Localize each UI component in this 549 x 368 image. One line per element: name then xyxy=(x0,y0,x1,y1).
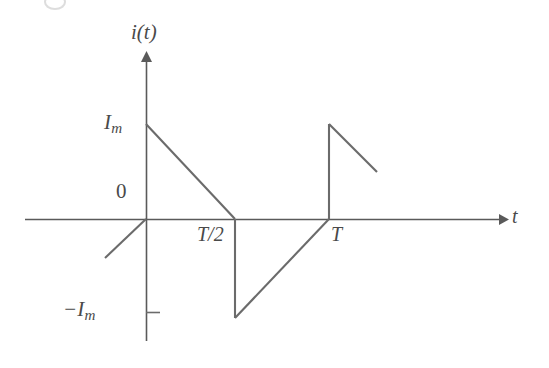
segment-rise-second-half xyxy=(235,219,329,318)
x-tick-label-period: T xyxy=(331,224,342,244)
y-axis-title: i(t) xyxy=(131,22,157,43)
y-tick-label-negative-im-base: −I xyxy=(63,297,84,321)
segment-fall-next-cycle xyxy=(329,124,377,172)
y-tick-label-negative-im-subscript: m xyxy=(84,307,95,323)
segment-previous-cycle-rise xyxy=(105,219,146,258)
x-axis-title: t xyxy=(512,206,518,226)
y-tick-label-positive-im: Im xyxy=(104,112,122,133)
x-tick-label-half-period: T/2 xyxy=(197,224,224,244)
x-axis xyxy=(25,214,509,225)
waveform-figure: i(t) Im 0 −Im T/2 T t xyxy=(0,0,549,368)
y-tick-label-positive-im-subscript: m xyxy=(111,120,122,136)
x-axis-arrowhead xyxy=(499,214,509,225)
y-axis-arrowhead xyxy=(141,51,152,62)
segment-fall-first-half xyxy=(146,124,235,219)
y-tick-label-negative-im: −Im xyxy=(63,299,95,320)
y-axis xyxy=(141,51,152,341)
y-tick-label-positive-im-base: I xyxy=(104,110,111,134)
origin-label: 0 xyxy=(116,181,127,202)
